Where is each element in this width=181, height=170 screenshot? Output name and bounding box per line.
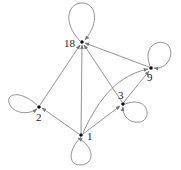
self-loop-9 bbox=[148, 42, 171, 68]
node-label-9: 9 bbox=[147, 71, 153, 83]
edge-9-18 bbox=[85, 43, 149, 67]
edge-3-18 bbox=[84, 45, 122, 102]
edge-1-18 bbox=[81, 45, 82, 133]
node-3 bbox=[121, 102, 125, 106]
graph-diagram: 18 2 1 3 9 bbox=[0, 0, 181, 170]
node-18 bbox=[80, 40, 84, 44]
edge-2-18 bbox=[40, 45, 80, 105]
self-loop-2 bbox=[9, 95, 37, 113]
node-label-1: 1 bbox=[87, 130, 93, 142]
node-label-18: 18 bbox=[64, 37, 76, 49]
edge-1-9 bbox=[83, 69, 148, 133]
node-2 bbox=[37, 105, 41, 109]
edge-3-9 bbox=[124, 71, 149, 102]
node-9 bbox=[149, 66, 153, 70]
node-1 bbox=[79, 133, 83, 137]
node-label-3: 3 bbox=[118, 89, 124, 101]
self-loop-3 bbox=[123, 102, 147, 122]
self-loop-18 bbox=[69, 3, 95, 41]
node-label-2: 2 bbox=[36, 111, 42, 123]
edge-1-2 bbox=[42, 108, 79, 134]
